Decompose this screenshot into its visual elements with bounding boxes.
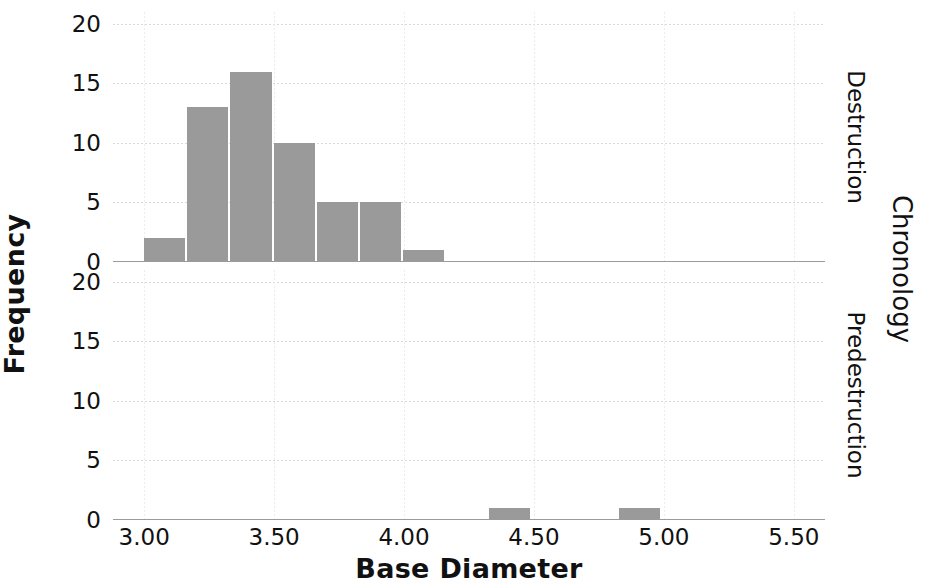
gridline-vertical bbox=[664, 270, 665, 520]
y-tick-label: 5 bbox=[43, 190, 101, 214]
x-tick-label: 3.00 bbox=[99, 524, 189, 554]
y-tick-label: 20 bbox=[43, 12, 101, 36]
x-tick-label: 4.00 bbox=[359, 524, 449, 554]
gridline-vertical bbox=[404, 270, 405, 520]
histogram-bar bbox=[360, 202, 401, 262]
y-tick-label: 0 bbox=[43, 508, 101, 532]
gridline-vertical bbox=[144, 270, 145, 520]
gridline-vertical bbox=[664, 12, 665, 262]
gridline-horizontal bbox=[113, 24, 825, 25]
x-axis-title: Base Diameter bbox=[113, 550, 825, 586]
y-tick-label: 10 bbox=[43, 389, 101, 413]
y-tick-label: 15 bbox=[43, 329, 101, 353]
facet-panel-predestruction bbox=[113, 270, 825, 520]
gridline-vertical bbox=[404, 12, 405, 262]
histogram-bar bbox=[144, 238, 185, 262]
panel-baseline-bottom bbox=[113, 519, 825, 521]
facet-label-predestruction: Predestruction bbox=[836, 270, 876, 520]
gridline-vertical bbox=[534, 270, 535, 520]
gridline-vertical bbox=[794, 12, 795, 262]
y-tick-label: 20 bbox=[43, 270, 101, 294]
y-axis-title: Frequency bbox=[0, 0, 34, 588]
y-tick-label: 5 bbox=[43, 448, 101, 472]
gridline-vertical bbox=[794, 270, 795, 520]
histogram-bar bbox=[317, 202, 358, 262]
gridline-horizontal bbox=[113, 401, 825, 402]
panel-baseline-top bbox=[113, 261, 825, 263]
gridline-vertical bbox=[274, 270, 275, 520]
gridline-vertical bbox=[144, 12, 145, 262]
x-tick-label: 3.50 bbox=[229, 524, 319, 554]
facet-panel-destruction bbox=[113, 12, 825, 262]
x-tick-label: 5.50 bbox=[749, 524, 839, 554]
facet-label-destruction: Destruction bbox=[836, 12, 876, 262]
gridline-horizontal bbox=[113, 282, 825, 283]
y-tick-label: 10 bbox=[43, 131, 101, 155]
gridline-horizontal bbox=[113, 460, 825, 461]
y-tick-label: 15 bbox=[43, 71, 101, 95]
gridline-vertical bbox=[534, 12, 535, 262]
chart-root: Frequency Base Diameter Chronology Destr… bbox=[0, 0, 950, 588]
gridline-horizontal bbox=[113, 341, 825, 342]
plot-area-destruction bbox=[113, 12, 825, 262]
histogram-bar bbox=[230, 72, 271, 262]
x-tick-label: 5.00 bbox=[619, 524, 709, 554]
x-tick-label: 4.50 bbox=[489, 524, 579, 554]
histogram-bar bbox=[187, 107, 228, 262]
gridline-horizontal bbox=[113, 83, 825, 84]
histogram-bar bbox=[274, 143, 315, 262]
right-axis-title: Chronology bbox=[880, 0, 924, 538]
plot-area-predestruction bbox=[113, 270, 825, 520]
